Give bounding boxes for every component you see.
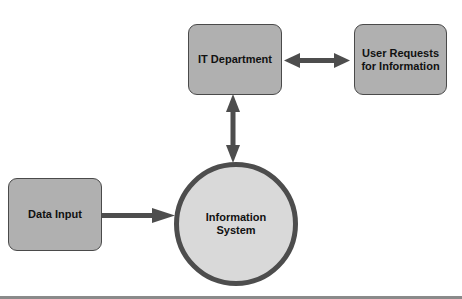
node-label-line1: Information: [206, 211, 267, 223]
node-information-system: Information System: [174, 162, 298, 286]
node-it-department: IT Department: [188, 24, 282, 95]
node-label-line1: User Requests: [362, 47, 439, 59]
arrow-data-input-to-information-system: [101, 208, 175, 223]
bidirectional-arrow-it-to-user-requests: [284, 53, 350, 68]
node-label-line2: System: [216, 224, 255, 236]
node-label: Information System: [206, 211, 267, 237]
diagram-canvas: IT Department User Requests for Informat…: [0, 0, 462, 299]
node-label-line2: for Information: [361, 60, 439, 72]
bidirectional-arrow-it-to-information-system: [226, 94, 240, 163]
node-label: IT Department: [198, 53, 272, 66]
node-label: User Requests for Information: [361, 47, 439, 73]
node-label: Data Input: [28, 208, 82, 221]
node-user-requests: User Requests for Information: [354, 24, 447, 95]
node-data-input: Data Input: [8, 178, 102, 251]
